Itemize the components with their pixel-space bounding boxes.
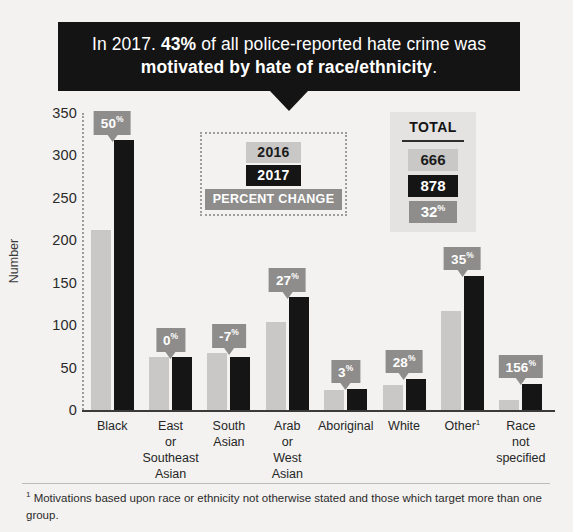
- percent-change-badge: 3%: [331, 360, 360, 384]
- percent-change-badge: 35%: [444, 247, 481, 271]
- total-percent-change: 32%: [409, 201, 458, 223]
- bar-group: [149, 113, 192, 410]
- callout-banner: In 2017. 43% of all police-reported hate…: [58, 22, 520, 91]
- percent-change-badge: -7%: [212, 324, 246, 348]
- y-axis-tick-350: 350: [52, 105, 77, 121]
- bar-2016: [441, 311, 461, 410]
- legend-item-2016: 2016: [246, 142, 300, 163]
- y-axis-tick-200: 200: [52, 232, 77, 248]
- y-axis-title: Number: [7, 239, 21, 283]
- percent-change-badge: 0%: [156, 328, 185, 352]
- total-value-2016: 666: [408, 149, 457, 171]
- bar-group: [91, 113, 134, 410]
- legend-item-2017: 2017: [246, 165, 300, 186]
- bar-2017: [347, 389, 367, 410]
- y-axis-dotted-line: [82, 113, 84, 410]
- bar-2016: [266, 322, 286, 410]
- bar-2016: [499, 400, 519, 410]
- bar-2017: [406, 379, 426, 410]
- callout-text-part1: In 2017.: [92, 34, 161, 54]
- callout-text-bold2: motivated by hate of race/ethnicity: [141, 57, 432, 77]
- bar-2017: [230, 357, 250, 410]
- bar-2016: [91, 230, 111, 410]
- bar-2016: [149, 357, 169, 410]
- y-axis-tick-150: 150: [52, 275, 77, 291]
- y-axis-tick-0: 0: [69, 402, 77, 418]
- bar-2017: [114, 140, 134, 410]
- callout-text-part3: .: [432, 57, 437, 77]
- total-title: TOTAL: [390, 119, 476, 135]
- bar-2016: [324, 390, 344, 410]
- percent-change-badge: 27%: [269, 268, 306, 292]
- y-axis-tick-50: 50: [60, 360, 77, 376]
- y-axis-tick-300: 300: [52, 147, 77, 163]
- total-divider: [402, 140, 464, 142]
- bar-2017: [289, 297, 309, 410]
- legend-box: 2016 2017 PERCENT CHANGE: [200, 132, 347, 216]
- callout-text-bold1: 43%: [161, 34, 196, 54]
- footnote-divider: [22, 483, 550, 484]
- bar-2017: [522, 384, 542, 410]
- bar-2017: [464, 276, 484, 410]
- bar-2017: [172, 357, 192, 410]
- y-axis-tick-100: 100: [52, 317, 77, 333]
- footnote-text: Motivations based upon race or ethnicity…: [26, 492, 542, 521]
- x-axis-label: Racenotspecified: [479, 418, 563, 466]
- percent-change-badge: 28%: [386, 350, 423, 374]
- callout-text-part2: of all police-reported hate crime was: [196, 34, 486, 54]
- y-axis-tick-250: 250: [52, 190, 77, 206]
- total-box: TOTAL 666 878 32%: [390, 112, 476, 232]
- percent-change-badge: 156%: [499, 355, 543, 379]
- bar-2016: [207, 353, 227, 410]
- bar-2016: [383, 385, 403, 410]
- x-axis-line: [82, 410, 555, 412]
- percent-change-badge: 50%: [94, 111, 131, 135]
- footnote: 1 Motivations based upon race or ethnici…: [26, 489, 546, 523]
- legend-item-percent-change: PERCENT CHANGE: [205, 189, 343, 210]
- total-value-2017: 878: [408, 175, 457, 197]
- infographic-canvas: In 2017. 43% of all police-reported hate…: [0, 0, 573, 532]
